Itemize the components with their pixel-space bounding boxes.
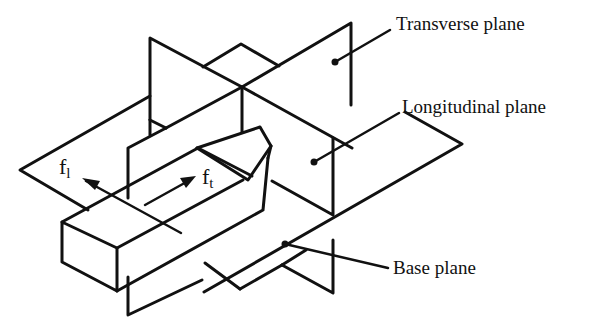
force-label-fl: fl	[59, 156, 71, 181]
tool-body	[62, 127, 271, 291]
leader-transverse	[332, 30, 391, 66]
longitudinal-plane-label: Longitudinal plane	[402, 97, 546, 116]
force-label-ft: ft	[202, 166, 214, 191]
diagram-canvas	[0, 0, 591, 322]
longitudinal-plane	[150, 38, 352, 215]
base-plane-label: Base plane	[393, 258, 476, 277]
leader-longitudinal	[311, 113, 400, 166]
force-subscript: l	[66, 165, 70, 181]
force-subscript: t	[209, 175, 213, 191]
force-arrow-fl	[82, 178, 181, 233]
transverse-plane-label: Transverse plane	[396, 14, 525, 33]
force-arrow-ft	[145, 176, 196, 205]
